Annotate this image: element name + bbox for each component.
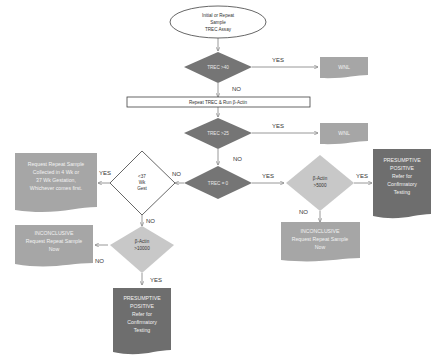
decision-trec25: TREC >25 bbox=[184, 118, 252, 149]
document-presumptive-positive-right: PRESUMPTIVE POSITIVE Refer for Confirmat… bbox=[373, 149, 431, 218]
presumptive-bottom-line-1: PRESUMPTIVE bbox=[123, 295, 161, 301]
label-actin5000-yes: YES bbox=[356, 173, 368, 179]
document-inconclusive-left: INCONCLUSIVE Request Repeat Sample Now bbox=[15, 225, 93, 266]
label-gest-yes: YES bbox=[99, 170, 111, 176]
presumptive-bottom-line-4: Confirmatory bbox=[127, 319, 157, 325]
decision-actin-10000: β-Actin >10000 bbox=[110, 226, 174, 273]
decision-trec0-label: TREC = 0 bbox=[208, 181, 229, 186]
actin10000-line-2: >10000 bbox=[134, 246, 150, 251]
inconclusive-left-line-2: Request Repeat Sample bbox=[26, 238, 83, 244]
inconclusive-right-line-3: Now bbox=[315, 244, 326, 250]
presumptive-bottom-line-5: Testing bbox=[134, 327, 151, 333]
start-line-3: TREC Assay bbox=[205, 27, 232, 32]
presumptive-right-line-1: PRESUMPTIVE bbox=[383, 157, 421, 163]
request-line-2: Collected in 4 Wk or bbox=[33, 169, 80, 175]
repeat-label: Repeat TREC & Run β-Actin bbox=[189, 100, 248, 105]
decision-trec40: TREC >40 bbox=[184, 52, 252, 83]
decision-trec40-label: TREC >40 bbox=[207, 65, 229, 70]
presumptive-right-line-3: Refer for bbox=[392, 173, 412, 179]
decision-gestation: <37 Wk Gest bbox=[110, 151, 175, 215]
terminal-wnl-2: WNL bbox=[320, 123, 368, 144]
label-trec40-yes: YES bbox=[272, 57, 284, 63]
request-line-3: 37 Wk Gestation, bbox=[36, 177, 76, 183]
document-inconclusive-right: INCONCLUSIVE Request Repeat Sample Now bbox=[281, 222, 360, 261]
actin5000-line-2: >5000 bbox=[314, 183, 327, 188]
flowchart: YES NO YES NO YES NO YES NO YES NO NO YE… bbox=[0, 0, 446, 363]
document-presumptive-positive-bottom: PRESUMPTIVE POSITIVE Refer for Confirmat… bbox=[113, 288, 171, 354]
label-trec0-no: NO bbox=[172, 171, 181, 177]
presumptive-right-line-2: POSITIVE bbox=[390, 165, 414, 171]
label-trec25-no: NO bbox=[233, 156, 242, 162]
request-line-4: Whichever comes first. bbox=[30, 185, 82, 191]
presumptive-bottom-line-3: Refer for bbox=[132, 311, 152, 317]
inconclusive-right-line-1: INCONCLUSIVE bbox=[301, 228, 340, 234]
start-line-2: Sample bbox=[210, 20, 226, 25]
label-actin10000-yes: YES bbox=[150, 277, 162, 283]
decision-trec0: TREC = 0 bbox=[184, 166, 252, 199]
request-line-1: Request Repeat Sample bbox=[28, 161, 85, 167]
gest-line-1: <37 bbox=[138, 174, 146, 179]
label-actin10000-no: NO bbox=[95, 258, 104, 264]
decision-trec25-label: TREC >25 bbox=[207, 131, 229, 136]
label-trec0-yes: YES bbox=[262, 173, 274, 179]
presumptive-right-line-5: Testing bbox=[394, 189, 411, 195]
inconclusive-left-line-3: Now bbox=[49, 246, 60, 252]
gest-line-2: Wk bbox=[139, 180, 146, 185]
actin5000-line-1: β-Actin bbox=[313, 176, 328, 181]
decision-actin-5000: β-Actin >5000 bbox=[286, 155, 354, 211]
terminal-wnl-1: WNL bbox=[320, 57, 368, 78]
presumptive-right-line-4: Confirmatory bbox=[387, 181, 417, 187]
start-line-1: Initial or Repeat bbox=[202, 13, 235, 18]
label-gest-no: NO bbox=[146, 218, 155, 224]
label-trec25-yes: YES bbox=[272, 123, 284, 129]
node-start: Initial or Repeat Sample TREC Assay bbox=[170, 6, 266, 38]
inconclusive-right-line-2: Request Repeat Sample bbox=[292, 236, 349, 242]
actin10000-line-1: β-Actin bbox=[135, 239, 150, 244]
presumptive-bottom-line-2: POSITIVE bbox=[130, 303, 154, 309]
wnl-2-label: WNL bbox=[338, 130, 350, 136]
inconclusive-left-line-1: INCONCLUSIVE bbox=[35, 230, 74, 236]
document-request-repeat-sample: Request Repeat Sample Collected in 4 Wk … bbox=[15, 153, 97, 212]
label-trec40-no: NO bbox=[232, 86, 241, 92]
process-repeat-trec: Repeat TREC & Run β-Actin bbox=[127, 97, 310, 107]
wnl-1-label: WNL bbox=[338, 64, 350, 70]
gest-line-3: Gest bbox=[137, 186, 147, 191]
label-actin5000-no: NO bbox=[299, 209, 308, 215]
